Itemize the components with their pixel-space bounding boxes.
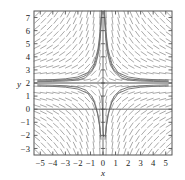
x-tick-label: 2 [126, 158, 130, 168]
x-tick-label: 1 [113, 158, 117, 168]
x-tick-label: 0 [101, 158, 105, 168]
y-axis-label: y [16, 79, 21, 89]
y-tick-label: −3 [21, 144, 30, 154]
y-tick-label: 6 [26, 26, 31, 36]
y-tick-label: 7 [26, 13, 31, 23]
x-tick-label: 3 [138, 158, 142, 168]
y-tick-label: 1 [26, 91, 30, 101]
y-tick-label: 0 [26, 104, 30, 114]
x-tick-label: 4 [151, 158, 156, 168]
y-tick-label: 4 [26, 52, 31, 62]
y-tick-label: −2 [21, 130, 30, 140]
x-tick-label: −5 [36, 158, 45, 168]
x-tick-label: −2 [73, 158, 82, 168]
x-tick-label: −4 [48, 158, 58, 168]
y-tick-label: 3 [26, 65, 30, 75]
x-axis-label: x [100, 168, 105, 178]
y-tick-label: −1 [21, 117, 30, 127]
x-tick-label: 5 [164, 158, 168, 168]
y-tick-label: 2 [26, 78, 30, 88]
slope-field-figure: −5−4−3−2−101234576543210−1−2−3 x y [0, 0, 185, 180]
x-tick-label: −1 [86, 158, 95, 168]
plot-canvas: −5−4−3−2−101234576543210−1−2−3 x y [0, 0, 185, 180]
y-tick-label: 5 [26, 39, 30, 49]
x-tick-label: −3 [61, 158, 70, 168]
